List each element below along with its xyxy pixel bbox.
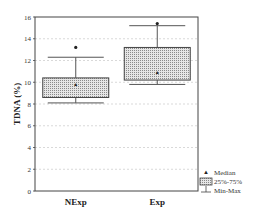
y-tick-label: 8 [28, 101, 32, 109]
outlier-point [74, 46, 77, 49]
y-axis-label: TDNA (%) [12, 83, 22, 125]
median-marker: ▲ [155, 70, 160, 75]
y-tick-label: 12 [24, 57, 32, 65]
outlier-point [156, 22, 159, 25]
legend-median-label: Median [214, 169, 236, 177]
y-tick-label: 16 [24, 14, 32, 22]
box-plot-chart: 0246810121416 ▲▲ NExpExp TDNA (%) ▲ Medi… [0, 0, 266, 214]
y-axis-ticks: 0246810121416 [24, 14, 35, 196]
x-axis-labels: NExpExp [65, 197, 165, 207]
legend-minmax-label: Min-Max [214, 187, 241, 195]
y-tick-label: 4 [28, 144, 32, 152]
box-exp: ▲ [124, 22, 190, 85]
x-category-label: NExp [65, 197, 87, 207]
iqr-box [43, 78, 109, 98]
x-category-label: Exp [149, 197, 165, 207]
y-tick-label: 14 [24, 35, 32, 43]
legend: ▲ Median 25%-75% Min-Max [200, 169, 242, 195]
legend-box-label: 25%-75% [214, 178, 242, 186]
legend-box-swatch [200, 178, 212, 185]
legend-median-marker: ▲ [203, 169, 209, 175]
median-marker: ▲ [73, 82, 78, 87]
legend-whisker-symbol [201, 186, 211, 192]
box-nexp: ▲ [43, 46, 109, 103]
box-series: ▲▲ [43, 22, 191, 103]
y-tick-label: 0 [28, 188, 32, 196]
y-tick-label: 10 [24, 79, 32, 87]
y-tick-label: 2 [28, 166, 32, 174]
y-tick-label: 6 [28, 122, 32, 130]
